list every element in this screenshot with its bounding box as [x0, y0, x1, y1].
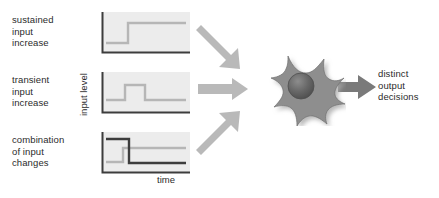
input-label-combination: combination of input changes [12, 134, 92, 169]
input-arrow-sustained [196, 25, 240, 69]
cell-nucleus [288, 73, 314, 99]
stellate-cell-figure [268, 52, 346, 126]
input-label-sustained: sustained input increase [12, 14, 86, 49]
trace-plot-combination [98, 132, 190, 176]
trace-plot-sustained [98, 12, 190, 56]
signal-integration-diagram: sustained input increase transient input… [0, 0, 439, 198]
output-label: distinct output decisions [378, 68, 439, 103]
input-arrow-combination [196, 111, 240, 155]
trace-panel-sustained [98, 12, 190, 56]
trace-plot-transient [98, 72, 190, 116]
input-arrow-transient [198, 78, 248, 100]
input-label-transient: transient input increase [12, 74, 86, 109]
trace-panel-combination [98, 132, 190, 176]
y-axis-label: input level [78, 64, 92, 116]
plot-background [102, 12, 190, 52]
trace-panel-transient [98, 72, 190, 116]
x-axis-label: time [157, 174, 175, 185]
